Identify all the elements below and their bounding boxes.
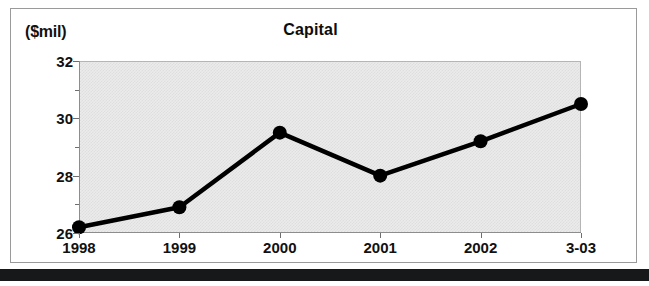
x-tick-mark xyxy=(280,233,281,238)
y-minor-tick-mark xyxy=(75,147,79,148)
series-line xyxy=(79,104,581,227)
data-point-marker: 3-03: 30.5 xyxy=(574,97,588,111)
x-tick-mark xyxy=(581,233,582,238)
x-tick-label: 2000 xyxy=(263,239,296,256)
capital-line-chart: ($mil) Capital 26283032 1998: 26.21999: … xyxy=(11,9,638,264)
x-tick-label: 2001 xyxy=(364,239,397,256)
y-minor-tick-mark xyxy=(75,90,79,91)
y-minor-tick-mark xyxy=(75,204,79,205)
x-tick-label: 3-03 xyxy=(566,239,596,256)
scan-artifact-band xyxy=(0,269,649,281)
data-point-marker: 2000: 29.5 xyxy=(273,126,287,140)
chart-title: Capital xyxy=(11,21,638,39)
x-tick-label: 2002 xyxy=(464,239,497,256)
data-point-marker: 2002: 29.2 xyxy=(474,134,488,148)
data-point-marker: 1999: 26.9 xyxy=(172,200,186,214)
x-tick-mark xyxy=(380,233,381,238)
x-tick-mark xyxy=(79,233,80,238)
y-tick-mark xyxy=(73,176,79,177)
y-tick-mark xyxy=(73,61,79,62)
y-tick-mark xyxy=(73,118,79,119)
y-axis-tick-labels: 26283032 xyxy=(35,61,73,233)
y-tick-label: 28 xyxy=(56,167,73,184)
chart-title-text: Capital xyxy=(283,21,338,39)
x-tick-mark xyxy=(481,233,482,238)
x-tick-label: 1999 xyxy=(163,239,196,256)
x-tick-label: 1998 xyxy=(62,239,95,256)
chart-card: ($mil) Capital 26283032 1998: 26.21999: … xyxy=(10,8,637,263)
series-capital: 1998: 26.21999: 26.92000: 29.52001: 2820… xyxy=(79,61,581,233)
page-bottom-margin xyxy=(0,281,649,286)
x-tick-mark xyxy=(179,233,180,238)
chart-page: ($mil) Capital 26283032 1998: 26.21999: … xyxy=(0,0,649,286)
data-point-marker: 2001: 28 xyxy=(373,169,387,183)
plot-area: 1998: 26.21999: 26.92000: 29.52001: 2820… xyxy=(79,61,581,233)
y-tick-label: 30 xyxy=(56,110,73,127)
y-tick-label: 32 xyxy=(56,53,73,70)
